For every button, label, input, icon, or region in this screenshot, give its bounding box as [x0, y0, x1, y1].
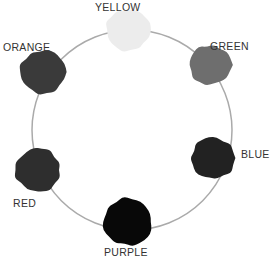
label-yellow: YELLOW	[95, 1, 141, 13]
label-green: GREEN	[210, 40, 249, 52]
swatch-orange	[20, 50, 67, 94]
label-orange: ORANGE	[3, 41, 50, 53]
label-purple: PURPLE	[104, 246, 148, 258]
color-wheel-diagram	[0, 0, 275, 260]
swatch-purple	[103, 197, 152, 245]
label-blue: BLUE	[241, 148, 270, 160]
swatch-yellow	[106, 10, 151, 51]
swatch-red	[15, 148, 60, 192]
label-red: RED	[13, 197, 36, 209]
swatch-blue	[191, 137, 235, 178]
